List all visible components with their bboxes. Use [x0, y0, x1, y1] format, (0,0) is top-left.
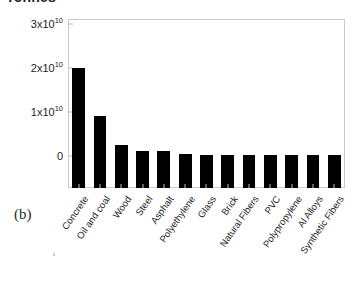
bar-slot: [238, 19, 259, 188]
axis-title-text: Tonnes: [6, 0, 126, 5]
scan-artifact-speck: [53, 253, 55, 256]
bar: [115, 145, 128, 188]
y-axis-tick-label: 3x1010: [3, 18, 63, 30]
y-tick-exponent: 10: [55, 16, 63, 25]
bar: [200, 155, 213, 188]
bar-slot: [153, 19, 174, 188]
bar-slot: [196, 19, 217, 188]
bar: [179, 154, 192, 188]
bar: [94, 116, 107, 188]
x-axis-tick-label: Wood: [110, 192, 134, 220]
bar-slot: [89, 19, 110, 188]
bar-slot: [260, 19, 281, 188]
bar-slot: [68, 19, 89, 188]
y-axis-tick-label: 2x1010: [3, 62, 63, 74]
y-axis-tick-label: 0: [3, 150, 63, 162]
bar-slot: [132, 19, 153, 188]
bar-slot: [324, 19, 345, 188]
y-tick-exponent: 10: [55, 104, 63, 113]
y-axis-tick-label: 1x1010: [3, 106, 63, 118]
bar: [136, 151, 149, 188]
bars-layer: [68, 19, 345, 188]
panel-label: (b): [14, 206, 32, 223]
bar: [72, 68, 85, 188]
bar-slot: [302, 19, 323, 188]
axis-title-clipped: Tonnes: [6, 0, 126, 5]
x-axis-tick-label: Glass: [195, 192, 219, 220]
x-axis-labels: ConcreteOil and coalWoodSteelAsphaltPoly…: [68, 188, 345, 284]
bar: [157, 151, 170, 188]
bar-slot: [281, 19, 302, 188]
x-axis-tick-label: Natural Fibers: [218, 192, 262, 249]
y-tick-exponent: 10: [55, 60, 63, 69]
bar-slot: [175, 19, 196, 188]
bar-slot: [111, 19, 132, 188]
y-tick-mantissa: 2x10: [31, 62, 55, 74]
y-tick-mantissa: 3x10: [31, 18, 55, 30]
y-tick-mantissa: 1x10: [31, 106, 55, 118]
bar-slot: [217, 19, 238, 188]
x-axis-tick-label: PVC: [262, 192, 283, 216]
